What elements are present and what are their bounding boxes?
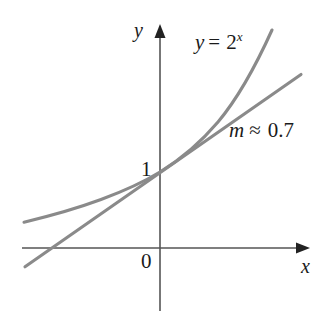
curve-equation-exponent: x — [237, 29, 243, 44]
graph-canvas — [0, 0, 324, 319]
slope-value: 0.7 — [268, 118, 294, 142]
y-axis-label: y — [134, 20, 143, 40]
slope-relation-symbol: ≈ — [249, 118, 261, 142]
curve-equation-lhs: y — [195, 30, 204, 54]
curve-equation-operator: = — [208, 30, 220, 54]
tangent-line — [25, 75, 301, 267]
curve-equation-label: y=2x — [195, 30, 242, 53]
arrow-right-icon — [296, 243, 310, 254]
slope-symbol: m — [229, 118, 244, 142]
arrow-up-icon — [155, 24, 166, 38]
origin-label-zero: 0 — [141, 251, 152, 272]
exponential-tangent-figure: y x 1 0 y=2x m≈0.7 — [0, 0, 324, 319]
x-axis-label: x — [301, 256, 310, 276]
curve-equation-base: 2 — [226, 30, 237, 54]
slope-annotation-label: m≈0.7 — [229, 120, 294, 141]
y-tick-label-one: 1 — [141, 159, 152, 180]
